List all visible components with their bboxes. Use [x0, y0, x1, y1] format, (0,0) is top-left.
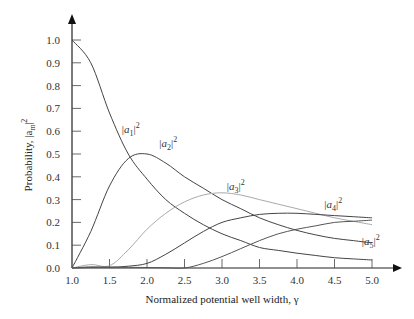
- y-tick-label: 0.3: [46, 194, 60, 206]
- y-tick-label: 0.5: [46, 148, 60, 160]
- y-tick-label: 0.1: [46, 239, 60, 251]
- y-tick-label: 0.4: [46, 171, 60, 183]
- curve-a2: [72, 154, 372, 268]
- curve-label-a2: |a2|2: [159, 135, 177, 152]
- curve-label-a1: |a1|2: [122, 121, 140, 138]
- chart: 1.01.52.02.53.03.54.04.55.00.00.10.20.30…: [0, 0, 414, 319]
- x-tick-label: 1.0: [65, 274, 79, 286]
- y-tick-label: 0.9: [46, 57, 60, 69]
- curves: [72, 40, 372, 268]
- curve-labels: |a1|2|a2|2|a3|2|a4|2|a5|2: [122, 121, 380, 250]
- x-tick-label: 4.0: [290, 274, 304, 286]
- axes: [68, 14, 402, 272]
- curve-label-a4: |a4|2: [324, 196, 342, 213]
- y-tick-label: 0.7: [46, 102, 60, 114]
- x-tick-label: 2.5: [178, 274, 192, 286]
- y-tick-label: 0.2: [46, 216, 60, 228]
- x-tick-label: 5.0: [365, 274, 379, 286]
- x-tick-label: 3.0: [215, 274, 229, 286]
- y-axis-label: Probability, |am|2: [20, 119, 37, 192]
- x-tick-label: 3.5: [253, 274, 267, 286]
- curve-label-a5: |a5|2: [362, 233, 380, 250]
- x-tick-label: 2.0: [140, 274, 154, 286]
- curve-label-a3: |a3|2: [227, 178, 245, 195]
- x-axis-arrow-icon: [393, 264, 402, 272]
- y-tick-label: 0.6: [46, 125, 60, 137]
- axis-ticks: 1.01.52.02.53.03.54.04.55.00.00.10.20.30…: [46, 34, 379, 286]
- y-tick-label: 1.0: [46, 34, 60, 46]
- x-tick-label: 1.5: [103, 274, 117, 286]
- y-axis-arrow-icon: [68, 14, 76, 24]
- y-tick-label: 0.8: [46, 80, 60, 92]
- x-tick-label: 4.5: [328, 274, 342, 286]
- curve-a1: [72, 40, 372, 260]
- y-tick-label: 0.0: [46, 262, 60, 274]
- x-axis-label: Normalized potential well width, γ: [145, 293, 298, 305]
- chart-canvas: 1.01.52.02.53.03.54.04.55.00.00.10.20.30…: [0, 0, 414, 319]
